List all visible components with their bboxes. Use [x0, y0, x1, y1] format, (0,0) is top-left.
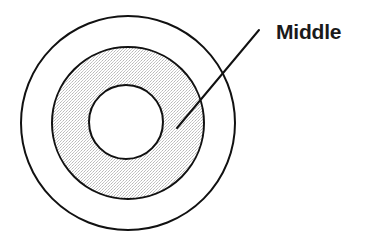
middle-label: Middle [276, 20, 341, 44]
inner-circle [89, 85, 163, 159]
figure-root: Middle [0, 0, 366, 247]
